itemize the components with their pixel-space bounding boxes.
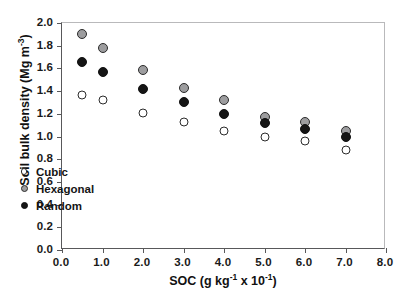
- y-axis-tick-label: 1.8: [37, 39, 53, 51]
- y-axis-tick: [57, 137, 62, 138]
- x-axis-tick: [184, 248, 185, 253]
- legend-item-label: Cubic: [36, 166, 68, 178]
- x-axis-tick-label: 6.0: [296, 256, 312, 268]
- x-axis-tick-label: 2.0: [134, 256, 150, 268]
- y-axis-tick-label: 1.2: [37, 107, 53, 119]
- x-axis-tick: [224, 248, 225, 253]
- y-axis-tick-label: 2.0: [37, 16, 53, 28]
- data-point-hexagonal: [179, 83, 189, 93]
- y-axis-tick-label: 0.2: [37, 220, 53, 232]
- data-point-random: [300, 124, 310, 134]
- x-axis-tick-label: 3.0: [174, 256, 190, 268]
- x-axis-tick: [346, 248, 347, 253]
- y-axis-tick-label: 1.4: [37, 84, 53, 96]
- legend-item-label: Hexagonal: [36, 183, 94, 195]
- data-point-hexagonal: [219, 95, 229, 105]
- x-axis-tick-label: 1.0: [93, 256, 109, 268]
- x-axis-title-mid: x 10: [237, 274, 265, 288]
- data-point-random: [138, 84, 148, 94]
- legend: CubicHexagonalRandom: [18, 163, 94, 214]
- circle-icon: [21, 185, 28, 192]
- x-axis-tick-label: 0.0: [53, 256, 69, 268]
- data-point-cubic: [220, 126, 229, 135]
- legend-marker-icon: [18, 185, 30, 192]
- x-axis-tick: [265, 248, 266, 253]
- circle-icon: [21, 202, 28, 209]
- y-axis-tick: [57, 91, 62, 92]
- legend-marker-icon: [18, 168, 30, 175]
- y-axis-tick: [57, 227, 62, 228]
- data-point-hexagonal: [77, 29, 87, 39]
- x-axis-title-superscript-2: -1: [265, 272, 273, 282]
- legend-item-random: Random: [18, 197, 94, 214]
- y-axis-tick: [57, 68, 62, 69]
- y-axis-title-base2: ): [18, 34, 32, 38]
- y-axis-tick: [57, 114, 62, 115]
- y-axis-tick: [57, 46, 62, 47]
- y-axis-tick-label: 1.0: [37, 130, 53, 142]
- x-axis-title-base2: ): [273, 274, 277, 288]
- x-axis-tick: [305, 248, 306, 253]
- y-axis-title-superscript: -3: [16, 39, 26, 47]
- y-axis-tick: [57, 23, 62, 24]
- data-point-cubic: [139, 108, 148, 117]
- data-point-hexagonal: [138, 65, 148, 75]
- circle-icon: [21, 168, 28, 175]
- data-point-random: [341, 132, 351, 142]
- x-axis-tick-label: 8.0: [377, 256, 393, 268]
- x-axis-tick: [62, 248, 63, 253]
- x-axis-tick-labels: 0.01.02.03.04.05.06.07.08.0: [0, 256, 412, 272]
- plot-area: [61, 22, 385, 249]
- x-axis-title-base1: SOC (g kg: [169, 274, 229, 288]
- data-point-cubic: [179, 117, 188, 126]
- x-axis-tick-label: 5.0: [255, 256, 271, 268]
- x-axis-tick: [103, 248, 104, 253]
- legend-marker-icon: [18, 202, 30, 209]
- legend-item-label: Random: [36, 200, 82, 212]
- x-axis-tick-label: 4.0: [215, 256, 231, 268]
- y-axis-tick: [57, 159, 62, 160]
- legend-item-cubic: Cubic: [18, 163, 94, 180]
- data-point-random: [77, 57, 87, 67]
- data-point-random: [219, 109, 229, 119]
- data-point-random: [260, 118, 270, 128]
- data-point-hexagonal: [98, 43, 108, 53]
- data-point-cubic: [98, 96, 107, 105]
- x-axis-title: SOC (g kg-1 x 10-1): [61, 274, 385, 288]
- legend-item-hexagonal: Hexagonal: [18, 180, 94, 197]
- data-point-cubic: [301, 137, 310, 146]
- scatter-chart-figure: 0.00.20.40.60.81.01.21.41.61.82.0 0.01.0…: [0, 0, 412, 304]
- x-axis-tick: [386, 248, 387, 253]
- data-point-random: [179, 97, 189, 107]
- data-point-cubic: [260, 132, 269, 141]
- x-axis-tick: [143, 248, 144, 253]
- y-axis-tick-label: 1.6: [37, 61, 53, 73]
- x-axis-tick-label: 7.0: [336, 256, 352, 268]
- data-point-random: [98, 67, 108, 77]
- y-axis-tick-label: 0.0: [37, 243, 53, 255]
- data-point-cubic: [341, 146, 350, 155]
- data-point-cubic: [78, 90, 87, 99]
